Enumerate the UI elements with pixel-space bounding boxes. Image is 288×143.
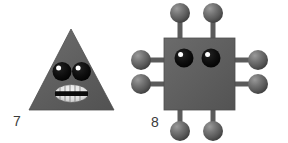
square-body [164,38,235,110]
triangle-right-eye [72,62,91,81]
square-right-eye-highlight [205,52,210,57]
triangle-left-eye-highlight [56,66,61,71]
square-left-eye-highlight [178,52,183,57]
illustration-canvas: 7 8 [0,0,288,143]
leg-ball-top-left [170,3,190,23]
figure-8-label: 8 [151,115,159,129]
triangle-mouth [55,84,89,103]
leg-ball-top-right [203,3,223,23]
square-left-eye [175,49,194,68]
triangle-left-eye [53,62,72,81]
mouth-opening-band [55,91,89,96]
triangle-right-eye-highlight [76,66,81,71]
leg-ball-left-upper [131,50,151,70]
square-right-eye [202,49,221,68]
figure-7-label: 7 [13,114,21,128]
shape-creatures-illustration [0,0,288,143]
leg-ball-right-upper [248,50,268,70]
leg-ball-left-lower [131,74,151,94]
leg-ball-bottom-left [170,121,190,141]
leg-ball-bottom-right [203,121,223,141]
figure-7-group [29,29,114,110]
leg-ball-right-lower [248,74,268,94]
